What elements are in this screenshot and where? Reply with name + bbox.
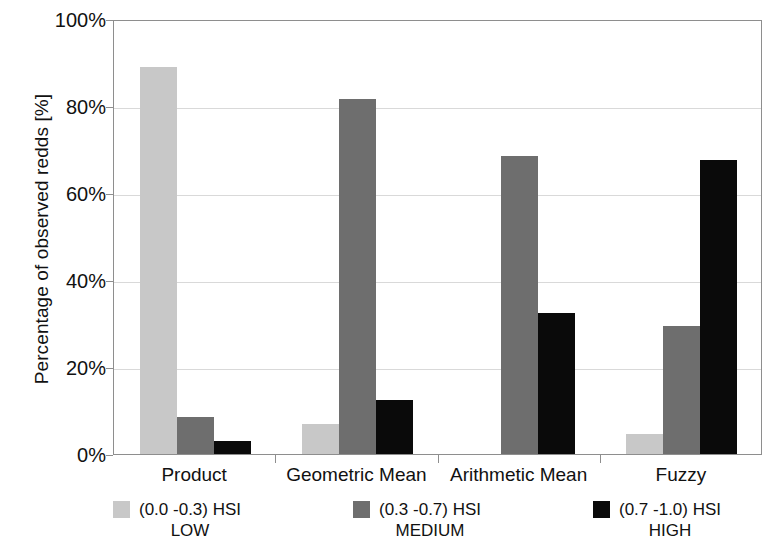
y-axis-tick-mark bbox=[106, 194, 113, 195]
legend-level-label: LOW bbox=[139, 520, 241, 541]
legend-level-label: MEDIUM bbox=[379, 520, 481, 541]
bars-layer bbox=[114, 21, 761, 454]
legend-color-swatch-icon bbox=[113, 501, 130, 518]
bar bbox=[626, 434, 663, 454]
legend-item[interactable]: (0.7 -1.0) HSIHIGH bbox=[593, 500, 721, 541]
bar bbox=[177, 417, 214, 454]
legend-color-swatch-icon bbox=[593, 501, 610, 518]
bar bbox=[140, 67, 177, 454]
bar bbox=[339, 99, 376, 454]
y-axis-tick-mark bbox=[106, 107, 113, 108]
legend-range-label: (0.7 -1.0) HSI bbox=[619, 500, 721, 520]
y-axis-tick-label: 100% bbox=[14, 9, 106, 32]
x-axis-tick-label: Product bbox=[161, 464, 226, 486]
x-axis-tick-label: Arithmetic Mean bbox=[450, 464, 587, 486]
y-axis-tick-label: 60% bbox=[14, 183, 106, 206]
chart-legend: (0.0 -0.3) HSILOW(0.3 -0.7) HSIMEDIUM(0.… bbox=[113, 500, 762, 552]
bar bbox=[501, 156, 538, 454]
legend-range-label: (0.3 -0.7) HSI bbox=[379, 500, 481, 520]
bar bbox=[538, 313, 575, 454]
bar bbox=[214, 441, 251, 454]
y-axis-tick-label: 40% bbox=[14, 270, 106, 293]
y-axis-tick-mark bbox=[106, 368, 113, 369]
x-axis-tick-label: Geometric Mean bbox=[286, 464, 426, 486]
y-axis-tick-label: 20% bbox=[14, 357, 106, 380]
bar bbox=[376, 400, 413, 454]
x-axis-group-separator bbox=[600, 455, 601, 463]
bar bbox=[700, 160, 737, 454]
legend-item[interactable]: (0.3 -0.7) HSIMEDIUM bbox=[353, 500, 481, 541]
x-axis-group-separator bbox=[275, 455, 276, 463]
x-axis-group-separator bbox=[438, 455, 439, 463]
y-axis-tick-mark bbox=[106, 20, 113, 21]
y-axis-tick-label: 80% bbox=[14, 96, 106, 119]
legend-range-label: (0.0 -0.3) HSI bbox=[139, 500, 241, 520]
y-axis-tick-label: 0% bbox=[14, 444, 106, 467]
y-axis-tick-mark bbox=[106, 455, 113, 456]
x-axis-tick-label: Fuzzy bbox=[656, 464, 707, 486]
bar bbox=[302, 424, 339, 454]
legend-item[interactable]: (0.0 -0.3) HSILOW bbox=[113, 500, 241, 541]
plot-area bbox=[113, 20, 762, 455]
legend-color-swatch-icon bbox=[353, 501, 370, 518]
legend-level-label: HIGH bbox=[619, 520, 721, 541]
y-axis-tick-mark bbox=[106, 281, 113, 282]
bar bbox=[663, 326, 700, 454]
bar-chart-figure: Percentage of observed redds [%] 0%20%40… bbox=[0, 0, 773, 557]
y-axis-tick-labels: 0%20%40%60%80%100% bbox=[8, 0, 106, 557]
